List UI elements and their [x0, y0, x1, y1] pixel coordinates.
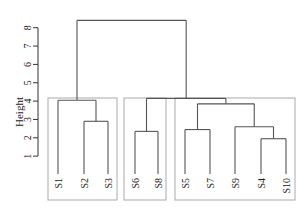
leaf-label: S9 [230, 178, 241, 189]
leaf-label: S3 [103, 178, 114, 189]
leaf-label: S4 [256, 178, 267, 189]
leaf-label: S5 [180, 178, 191, 189]
y-tick-label: 7 [22, 44, 33, 49]
y-tick-label: 5 [22, 80, 33, 85]
dendrogram-tree [58, 20, 286, 174]
leaf-label: S1 [53, 178, 64, 189]
leaf-label: S6 [130, 178, 141, 189]
leaf-labels: S1S2S3S6S8S5S7S9S4S10 [53, 178, 292, 194]
y-tick-label: 6 [22, 62, 33, 67]
y-tick-label: 2 [22, 135, 33, 140]
y-tick-label: 1 [22, 154, 33, 159]
leaf-label: S8 [153, 178, 164, 189]
y-tick-label: 8 [22, 25, 33, 30]
leaf-label: S2 [79, 178, 90, 189]
y-axis: 12345678 [22, 25, 39, 158]
leaf-label: S10 [281, 178, 292, 194]
y-tick-label: 4 [22, 99, 33, 104]
leaf-label: S7 [205, 178, 216, 189]
y-tick-label: 3 [22, 117, 33, 122]
dendrogram-plot: 12345678 S1S2S3S6S8S5S7S9S4S10 [0, 0, 305, 212]
